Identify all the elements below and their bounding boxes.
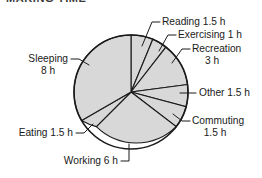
label-sleeping-line1: Sleeping xyxy=(28,53,68,64)
pie-chart: Reading 1.5 h Exercising 1 h Recreation … xyxy=(0,0,262,178)
label-commuting-line2: 1.5 h xyxy=(204,127,227,138)
label-commuting-line1: Commuting xyxy=(192,115,244,126)
label-other: Other 1.5 h xyxy=(199,87,250,98)
label-exercising: Exercising 1 h xyxy=(178,29,242,40)
leader-line-working xyxy=(121,144,129,161)
label-sleeping-line2: 8 h xyxy=(41,65,55,76)
label-recreation-line1: Recreation xyxy=(192,43,241,54)
label-working: Working 6 h xyxy=(64,155,118,166)
label-reading: Reading 1.5 h xyxy=(162,16,225,27)
label-eating: Eating 1.5 h xyxy=(19,127,73,138)
label-recreation-line2: 3 h xyxy=(205,55,219,66)
